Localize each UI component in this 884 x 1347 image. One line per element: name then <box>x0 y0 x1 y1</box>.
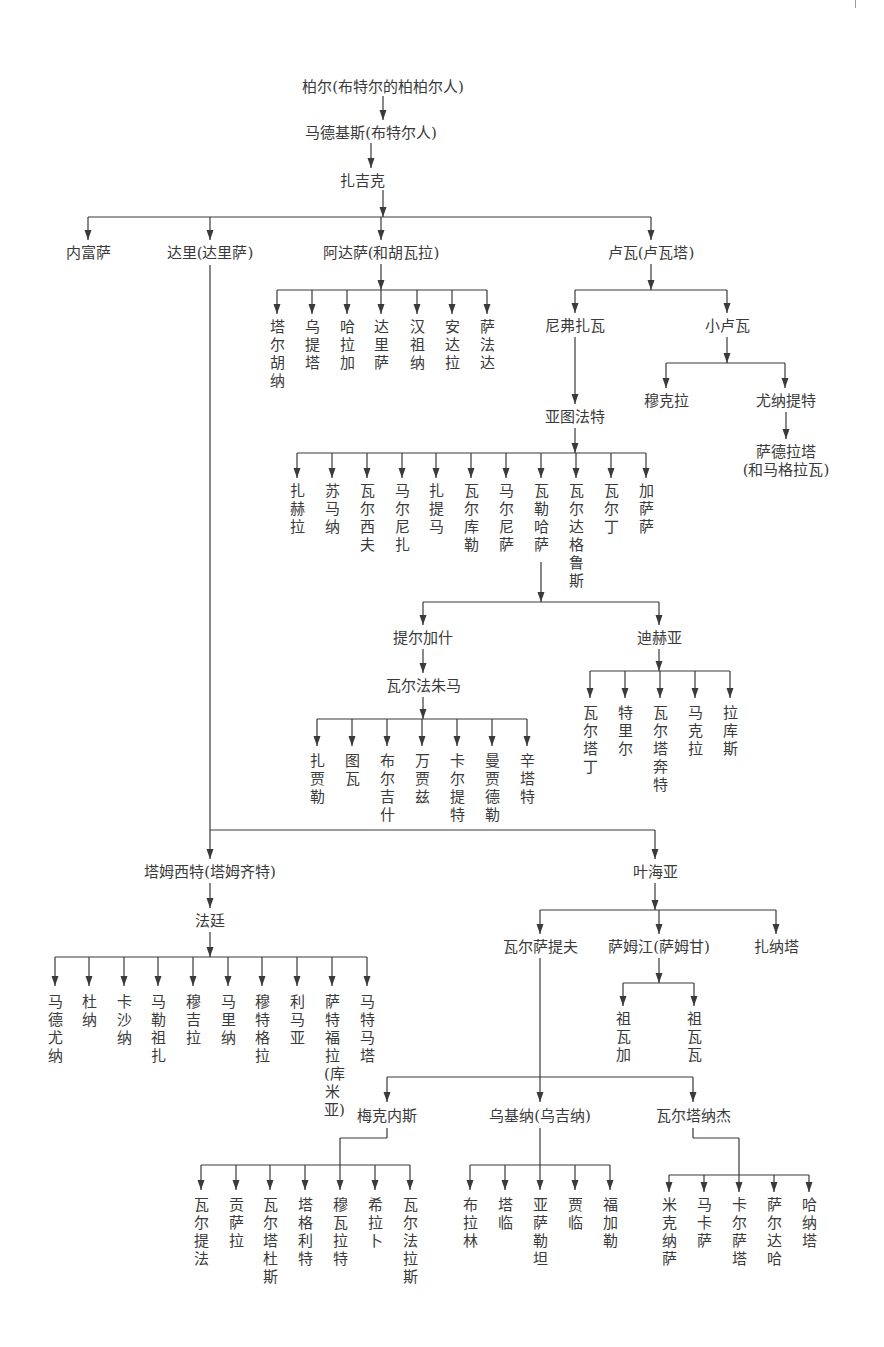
tree-leaf-fatin-children: 马德尤纳 <box>47 993 63 1065</box>
arrow-down-icon <box>155 976 162 986</box>
arrow-down-icon <box>656 661 663 671</box>
arrow-down-icon <box>294 976 301 986</box>
page-edge-mark <box>855 0 856 8</box>
arrow-down-icon <box>537 1092 544 1102</box>
tree-leaf-warfajuma-children: 万贾兹 <box>414 752 430 806</box>
tree-leaf-fatin-children: 马勒祖扎 <box>150 993 166 1065</box>
tree-node-tamsit: 塔姆西特(塔姆齐特) <box>144 863 276 881</box>
arrow-down-icon <box>692 688 699 698</box>
tree-leaf-adasa-children: 塔尔胡纳 <box>269 318 285 390</box>
arrow-down-icon <box>622 688 629 698</box>
tree-leaf-yatufat-children: 加萨萨 <box>638 482 654 536</box>
tree-leaf-adasa-children: 萨法达 <box>479 318 495 372</box>
arrow-down-icon <box>572 303 579 313</box>
arrow-down-icon <box>207 849 214 859</box>
tree-leaf-meknes-children: 贡萨拉 <box>228 1196 244 1250</box>
arrow-down-icon <box>419 736 426 746</box>
arrow-down-icon <box>267 1180 274 1190</box>
arrow-down-icon <box>572 394 579 404</box>
tree-node-zajik: 扎吉克 <box>340 172 385 190</box>
arrow-down-icon <box>467 1180 474 1190</box>
arrow-down-icon <box>783 429 790 439</box>
tree-leaf-dihya-children: 特里尔 <box>617 704 633 758</box>
tree-leaf-dihya-children: 马克拉 <box>687 704 703 758</box>
tree-leaf-fatin-children: 杜纳 <box>81 993 97 1029</box>
arrow-down-icon <box>190 976 197 986</box>
tree-node-ukina: 乌基纳(乌吉纳) <box>489 1107 591 1125</box>
tree-leaf-ukina-children: 亚萨勒坦 <box>532 1196 548 1268</box>
tree-leaf-yatufat-children: 马尔尼扎 <box>394 482 410 554</box>
arrow-down-icon <box>433 468 440 478</box>
arrow-down-icon <box>198 1180 205 1190</box>
arrow-down-icon <box>302 1180 309 1190</box>
tree-leaf-samjan-children: 祖瓦瓦 <box>686 1010 702 1064</box>
tree-leaf-adasa-children: 哈拉加 <box>339 318 355 372</box>
tree-leaf-samjan-children: 祖瓦加 <box>615 1010 631 1064</box>
arrow-down-icon <box>656 924 663 934</box>
arrow-down-icon <box>344 304 351 314</box>
tree-leaf-yatufat-children: 瓦尔西夫 <box>359 482 375 554</box>
tree-leaf-yatufat-children: 瓦尔库勒 <box>463 482 479 554</box>
arrow-down-icon <box>572 443 579 453</box>
arrow-down-icon <box>349 736 356 746</box>
arrow-down-icon <box>364 468 371 478</box>
tree-leaf-warfajuma-children: 曼贾德勒 <box>484 752 500 824</box>
arrow-down-icon <box>663 378 670 388</box>
tree-leaf-fatin-children: 卡沙纳 <box>116 993 132 1047</box>
tree-leaf-meknes-children: 穆瓦拉特 <box>332 1196 348 1268</box>
arrow-down-icon <box>538 468 545 478</box>
arrow-down-icon <box>690 1092 697 1102</box>
arrow-down-icon <box>454 736 461 746</box>
tree-node-yahya: 叶海亚 <box>633 863 678 881</box>
arrow-down-icon <box>420 709 427 719</box>
arrow-down-icon <box>489 736 496 746</box>
tree-node-yatufat: 亚图法特 <box>545 408 605 426</box>
arrow-down-icon <box>52 976 59 986</box>
tree-leaf-warfajuma-children: 卡尔提特 <box>449 752 465 824</box>
tree-node-nefusa: 内富萨 <box>66 244 111 262</box>
arrow-down-icon <box>207 230 214 240</box>
tree-leaf-yatufat-children: 瓦尔丁 <box>603 482 619 536</box>
arrow-down-icon <box>502 1180 509 1190</box>
arrow-down-icon <box>368 158 375 168</box>
tree-leaf-meknes-children: 塔格利特 <box>297 1196 313 1268</box>
arrow-down-icon <box>484 304 491 314</box>
arrow-down-icon <box>259 976 266 986</box>
tree-leaf-meknes-children: 希拉卜 <box>367 1196 383 1250</box>
arrow-down-icon <box>573 468 580 478</box>
arrow-down-icon <box>380 207 387 217</box>
tree-leaf-fatin-children: 萨特福拉(库米亚) <box>324 993 340 1119</box>
arrow-down-icon <box>657 688 664 698</box>
arrow-down-icon <box>225 976 232 986</box>
tree-node-samjan: 萨姆江(萨姆甘) <box>608 938 710 956</box>
arrow-down-icon <box>587 688 594 698</box>
arrow-down-icon <box>656 615 663 625</box>
tree-leaf-fatin-children: 利马亚 <box>289 993 305 1047</box>
arrow-down-icon <box>607 1180 614 1190</box>
arrow-down-icon <box>691 996 698 1006</box>
tree-leaf-meknes-children: 瓦尔提法 <box>193 1196 209 1268</box>
tree-leaf-ukina-children: 福加勒 <box>602 1196 618 1250</box>
tree-leaf-adasa-children: 汉祖纳 <box>409 318 425 372</box>
tree-node-warfajuma: 瓦尔法朱马 <box>386 677 461 695</box>
tree-node-meknes: 梅克内斯 <box>357 1107 417 1125</box>
arrow-down-icon <box>727 688 734 698</box>
tree-leaf-adasa-children: 乌提塔 <box>304 318 320 372</box>
arrow-down-icon <box>608 468 615 478</box>
arrow-down-icon <box>736 1182 743 1192</box>
tree-node-little-luwa: 小卢瓦 <box>705 317 750 335</box>
arrow-down-icon <box>414 304 421 314</box>
tree-leaf-adasa-children: 达里萨 <box>373 318 389 372</box>
tree-leaf-meknes-children: 瓦尔塔杜斯 <box>262 1196 278 1286</box>
tree-leaf-warfajuma-children: 辛塔特 <box>519 752 535 806</box>
arrow-down-icon <box>537 1180 544 1190</box>
tree-leaf-ukina-children: 布拉林 <box>462 1196 478 1250</box>
arrow-down-icon <box>329 468 336 478</box>
tree-leaf-fatin-children: 马特马塔 <box>359 993 375 1065</box>
arrow-down-icon <box>294 468 301 478</box>
tree-leaf-warfajuma-children: 布尔吉什 <box>379 752 395 824</box>
arrow-down-icon <box>724 303 731 313</box>
arrow-down-icon <box>648 280 655 290</box>
arrow-down-icon <box>420 663 427 673</box>
tree-node-madghis: 马德基斯(布特尔人) <box>305 124 437 142</box>
